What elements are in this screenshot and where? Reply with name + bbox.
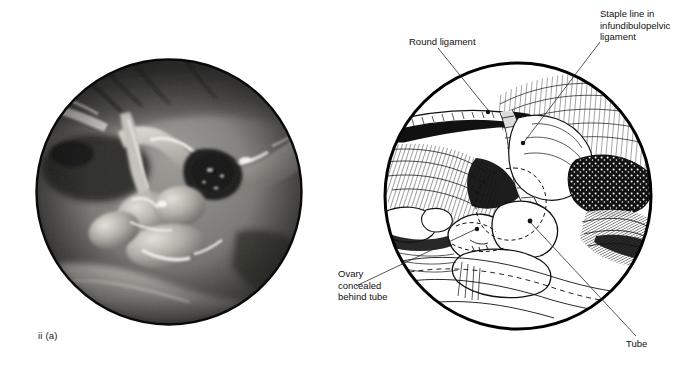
panel-drawing: ii (b) bbox=[348, 0, 695, 372]
leader-dot-ovary bbox=[475, 227, 479, 231]
callout-tube: Tube bbox=[626, 338, 647, 350]
panel-caption-ii-a: ii (a) bbox=[38, 330, 58, 341]
callout-round-ligament: Round ligament bbox=[409, 36, 476, 48]
photograph-artwork bbox=[0, 0, 348, 372]
drawing-artwork bbox=[348, 0, 695, 372]
leader-dot-staple-line bbox=[521, 141, 525, 145]
leader-dot-tube bbox=[528, 219, 533, 224]
callout-ovary-concealed-behind-tube: Ovary concealed behind tube bbox=[338, 268, 388, 303]
panel-photograph: ii (a) bbox=[0, 0, 348, 372]
figure-root: ii (a) bbox=[0, 0, 695, 372]
callout-staple-line-infundibulopelvic-ligament: Staple line in infundibulopelvic ligamen… bbox=[600, 8, 670, 43]
leader-dot-round-ligament bbox=[486, 110, 490, 114]
